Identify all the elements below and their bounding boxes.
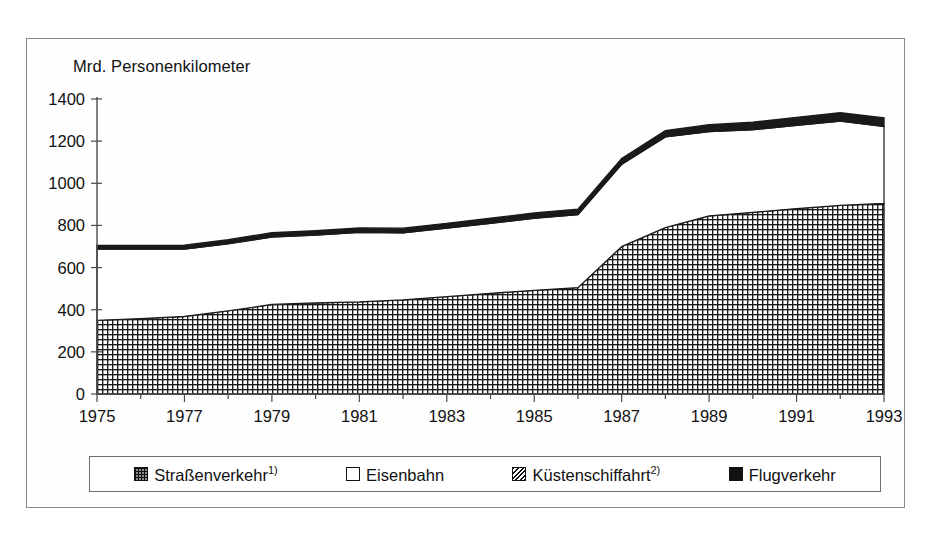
x-tick-label-1989: 1989 [691, 407, 728, 425]
y-tick-label-0: 0 [76, 385, 85, 403]
y-tick-label-800: 800 [57, 216, 85, 234]
x-tick-label-1979: 1979 [254, 407, 291, 425]
chart-legend: Straßenverkehr1) Eisenbahn Küstenschiffa… [89, 456, 881, 492]
black-swatch-icon [729, 467, 743, 481]
y-tick-label-1000: 1000 [48, 174, 85, 192]
legend-item-eisenbahn[interactable]: Eisenbahn [346, 464, 444, 485]
y-tick-label-1200: 1200 [48, 132, 85, 150]
chart-figure: Mrd. Personenkilometer 02004006008001000… [26, 38, 905, 508]
legend-item-strassenverkehr[interactable]: Straßenverkehr1) [134, 464, 278, 485]
legend-item-flugverkehr[interactable]: Flugverkehr [729, 464, 836, 485]
legend-label-kuestenschiffahrt: Küstenschiffahrt2) [532, 464, 660, 485]
legend-label-strassenverkehr: Straßenverkehr1) [154, 464, 278, 485]
x-tick-label-1981: 1981 [341, 407, 378, 425]
legend-item-kuestenschiffahrt[interactable]: Küstenschiffahrt2) [512, 464, 660, 485]
x-tick-label-1991: 1991 [778, 407, 815, 425]
y-tick-label-600: 600 [57, 259, 85, 277]
plot-area: 0200400600800100012001400197519771979198… [27, 39, 906, 509]
x-tick-label-1985: 1985 [516, 407, 553, 425]
y-tick-label-1400: 1400 [48, 90, 85, 108]
grid-pattern-swatch-icon [134, 467, 148, 481]
x-tick-label-1987: 1987 [603, 407, 640, 425]
y-tick-label-400: 400 [57, 301, 85, 319]
stacked-area-chart: 0200400600800100012001400197519771979198… [27, 39, 906, 509]
y-tick-label-200: 200 [57, 343, 85, 361]
x-tick-label-1977: 1977 [166, 407, 203, 425]
diagonal-hatch-swatch-icon [512, 467, 526, 481]
white-swatch-icon [346, 467, 360, 481]
legend-label-flugverkehr: Flugverkehr [749, 464, 836, 485]
x-tick-label-1975: 1975 [79, 407, 116, 425]
x-tick-label-1993: 1993 [866, 407, 903, 425]
x-tick-label-1983: 1983 [428, 407, 465, 425]
legend-label-eisenbahn: Eisenbahn [366, 464, 444, 485]
